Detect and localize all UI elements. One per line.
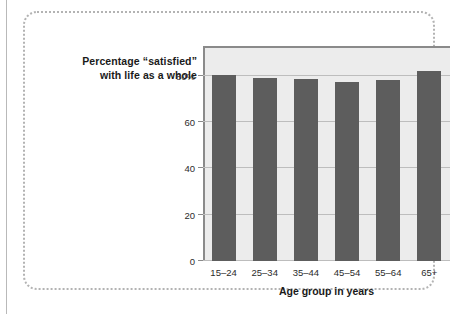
x-tick-label: 35–44 — [293, 267, 319, 278]
bar — [212, 75, 236, 261]
bar — [376, 80, 400, 261]
x-tick-label: 55–64 — [375, 267, 401, 278]
y-tick-label-60: 60 — [184, 117, 195, 128]
x-axis-title: Age group in years — [203, 285, 450, 297]
x-tick-label: 15–24 — [210, 267, 236, 278]
figure-frame: Percentage “satisfied” with life as a wh… — [23, 11, 435, 290]
bar-series: 15–24 25–34 35–44 45–54 55–64 — [203, 48, 450, 261]
plot-wrapper: 0 20 40 60 80% 15–24 25–34 35–44 — [203, 46, 450, 261]
bar — [294, 79, 318, 261]
bar — [417, 71, 441, 261]
y-tick-label-80: 80% — [176, 70, 195, 81]
bar-slot: 65+ — [409, 48, 450, 261]
bar-slot: 35–44 — [285, 48, 326, 261]
page-margin-rule — [6, 0, 7, 314]
bar-slot: 15–24 — [203, 48, 244, 261]
y-tick-label-20: 20 — [184, 209, 195, 220]
bar — [253, 78, 277, 261]
x-tick-label: 65+ — [421, 267, 437, 278]
y-tick-label-40: 40 — [184, 163, 195, 174]
chart-title-line-1: Percentage “satisfied” — [57, 55, 197, 69]
x-tick-label: 25–34 — [252, 267, 278, 278]
x-tick-label: 45–54 — [334, 267, 360, 278]
y-tick-label-0: 0 — [190, 256, 195, 267]
bar-slot: 55–64 — [368, 48, 409, 261]
bar-slot: 25–34 — [244, 48, 285, 261]
bar-slot: 45–54 — [327, 48, 368, 261]
plot-area: 0 20 40 60 80% 15–24 25–34 35–44 — [203, 46, 450, 261]
bar — [335, 82, 359, 261]
